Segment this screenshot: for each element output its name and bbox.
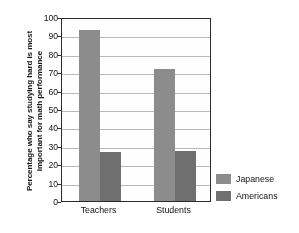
x-category-label: Students	[136, 205, 211, 216]
legend-label: Americans	[236, 191, 278, 201]
y-tick-label: 60	[32, 87, 58, 96]
legend-item-americans: Americans	[216, 187, 296, 204]
y-tick-label: 20	[32, 161, 58, 170]
y-tick-label: 90	[32, 32, 58, 41]
legend-label: Japanese	[236, 174, 274, 184]
legend-swatch-americans	[216, 191, 231, 201]
legend-swatch-japanese	[216, 174, 231, 184]
y-tick-mark	[57, 184, 61, 185]
y-tick-label: 80	[32, 50, 58, 59]
bar-group-container	[62, 19, 210, 201]
y-tick-label: 70	[32, 69, 58, 78]
bar-japanese-teachers	[79, 30, 100, 201]
y-tick-mark	[57, 165, 61, 166]
plot-area	[61, 18, 211, 202]
y-tick-mark	[57, 110, 61, 111]
y-tick-label: 50	[32, 106, 58, 115]
bar-japanese-students	[154, 69, 175, 201]
legend: JapaneseAmericans	[216, 170, 296, 204]
y-tick-label: 10	[32, 179, 58, 188]
y-tick-label: 0	[32, 198, 58, 207]
y-tick-mark	[57, 128, 61, 129]
y-tick-mark	[57, 18, 61, 19]
y-tick-label: 40	[32, 124, 58, 133]
legend-item-japanese: Japanese	[216, 170, 296, 187]
y-tick-label: 100	[32, 14, 58, 23]
y-tick-mark	[57, 202, 61, 203]
x-category-label: Teachers	[61, 205, 136, 216]
bar-americans-teachers	[100, 152, 121, 201]
y-axis-tick-labels: 0102030405060708090100	[32, 18, 58, 202]
y-tick-mark	[57, 92, 61, 93]
x-axis-category-labels: TeachersStudents	[61, 205, 211, 221]
y-tick-mark	[57, 73, 61, 74]
bar-chart-figure: Percentage who say studying hard is most…	[0, 0, 299, 233]
y-tick-mark	[57, 55, 61, 56]
y-tick-label: 30	[32, 142, 58, 151]
bar-americans-students	[175, 151, 196, 201]
y-tick-mark	[57, 147, 61, 148]
y-tick-mark	[57, 36, 61, 37]
